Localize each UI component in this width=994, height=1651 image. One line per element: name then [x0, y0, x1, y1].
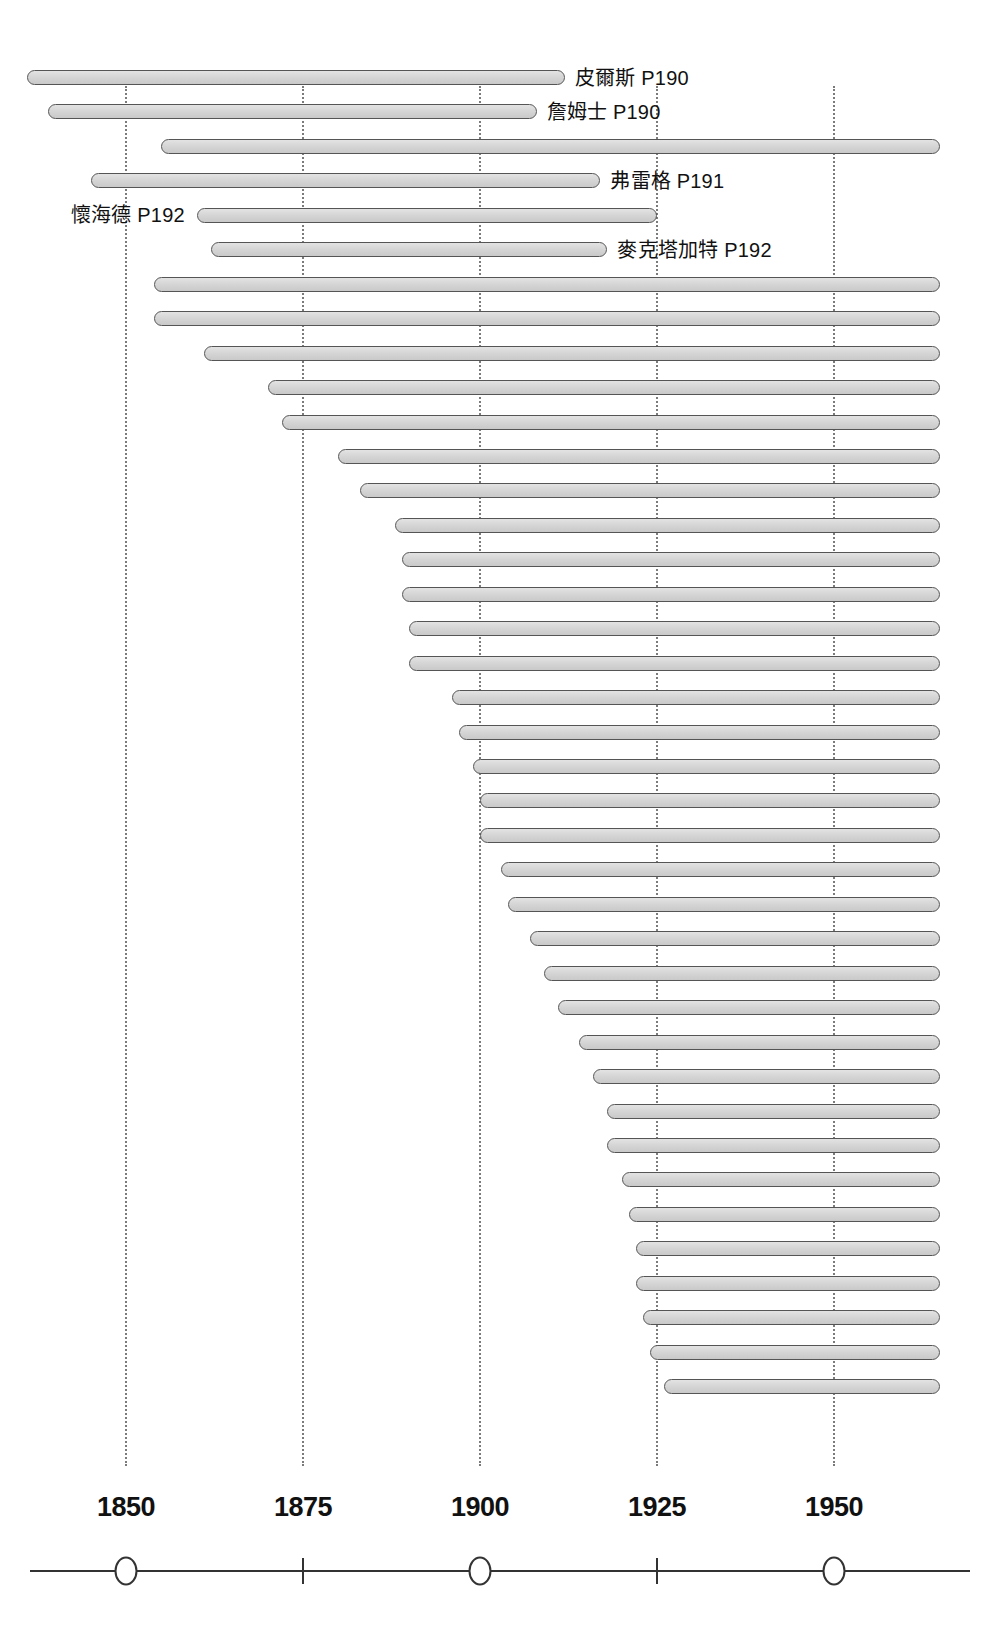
timeline-bar[interactable] — [402, 552, 940, 567]
timeline-bar[interactable] — [154, 277, 940, 292]
timeline-bar[interactable] — [558, 1000, 940, 1015]
timeline-bar[interactable] — [27, 70, 565, 85]
timeline-bar[interactable] — [395, 518, 940, 533]
gridline-1950 — [833, 86, 835, 1466]
timeline-bar[interactable] — [204, 346, 940, 361]
axis-tick-label-1925: 1925 — [628, 1492, 686, 1523]
axis-circle-marker[interactable] — [823, 1557, 846, 1586]
timeline-bar[interactable] — [91, 173, 601, 188]
timeline-bar[interactable] — [607, 1104, 940, 1119]
timeline-bar[interactable] — [360, 483, 941, 498]
timeline-bar[interactable] — [409, 656, 940, 671]
axis-circle-marker[interactable] — [115, 1557, 138, 1586]
timeline-bar[interactable] — [48, 104, 537, 119]
timeline-bar[interactable] — [643, 1310, 940, 1325]
timeline-bar[interactable] — [402, 587, 940, 602]
axis-minor-tick — [656, 1558, 658, 1584]
gridline-1875 — [302, 86, 304, 1466]
axis-minor-tick — [302, 1558, 304, 1584]
timeline-bar[interactable] — [473, 759, 940, 774]
timeline-bar[interactable] — [282, 415, 940, 430]
bar-label: 皮爾斯 P190 — [575, 68, 689, 88]
axis-tick-label-1875: 1875 — [274, 1492, 332, 1523]
timeline-bar[interactable] — [338, 449, 940, 464]
timeline-bar[interactable] — [664, 1379, 940, 1394]
timeline-bar[interactable] — [480, 793, 940, 808]
timeline-bar[interactable] — [650, 1345, 940, 1360]
timeline-bar[interactable] — [629, 1207, 941, 1222]
timeline-bar[interactable] — [636, 1241, 940, 1256]
timeline-bar[interactable] — [409, 621, 940, 636]
timeline-chart: 皮爾斯 P190詹姆士 P190弗雷格 P191懷海德 P192麥克塔加特 P1… — [0, 0, 994, 1651]
axis-tick-label-1950: 1950 — [805, 1492, 863, 1523]
axis-tick-label-1850: 1850 — [97, 1492, 155, 1523]
bar-label: 懷海德 P192 — [0, 205, 185, 225]
timeline-bar[interactable] — [154, 311, 940, 326]
timeline-bar[interactable] — [161, 139, 940, 154]
timeline-bar[interactable] — [197, 208, 657, 223]
bar-label: 詹姆士 P190 — [547, 102, 661, 122]
timeline-bar[interactable] — [480, 828, 940, 843]
bar-label: 弗雷格 P191 — [610, 171, 724, 191]
timeline-bar[interactable] — [636, 1276, 940, 1291]
timeline-bar[interactable] — [452, 690, 941, 705]
timeline-bar[interactable] — [622, 1172, 941, 1187]
bar-label: 麥克塔加特 P192 — [617, 240, 771, 260]
timeline-bar[interactable] — [508, 897, 940, 912]
timeline-bar[interactable] — [530, 931, 941, 946]
axis-circle-marker[interactable] — [469, 1557, 492, 1586]
timeline-bar[interactable] — [459, 725, 940, 740]
gridline-1925 — [656, 86, 658, 1466]
timeline-bar[interactable] — [607, 1138, 940, 1153]
timeline-bar[interactable] — [579, 1035, 940, 1050]
gridline-1900 — [479, 86, 481, 1466]
timeline-bar[interactable] — [501, 862, 940, 877]
timeline-bar[interactable] — [593, 1069, 940, 1084]
axis-tick-label-1900: 1900 — [451, 1492, 509, 1523]
timeline-bar[interactable] — [211, 242, 607, 257]
timeline-bar[interactable] — [268, 380, 941, 395]
timeline-bar[interactable] — [544, 966, 940, 981]
gridline-1850 — [125, 86, 127, 1466]
